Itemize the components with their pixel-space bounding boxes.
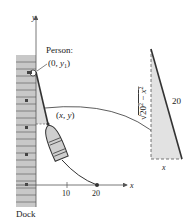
start-point — [95, 183, 99, 187]
dock — [16, 55, 36, 207]
svg-text:√202 − x2: √202 − x2 — [138, 86, 148, 120]
rope-path-curve — [62, 160, 97, 185]
x-axis-label: x — [129, 181, 134, 190]
person-label: Person: — [46, 45, 73, 55]
dock-boat-diagram: y x 10 20 Person: (0, y1) (x, y) 20 x √2… — [0, 0, 195, 221]
boat-point — [46, 122, 49, 125]
y-axis-label: y — [31, 13, 36, 22]
person-coordinate: (0, y1) — [48, 58, 70, 69]
hypotenuse-label: 20 — [172, 96, 182, 106]
tick-label-20: 20 — [92, 189, 100, 198]
person-pointer — [37, 64, 47, 71]
dock-label: Dock — [16, 209, 36, 219]
height-label: √202 − x2 — [138, 86, 148, 120]
boat-coordinate: (x, y) — [56, 110, 75, 120]
base-label: x — [161, 163, 166, 172]
boat — [42, 123, 69, 162]
tick-label-10: 10 — [62, 189, 70, 198]
